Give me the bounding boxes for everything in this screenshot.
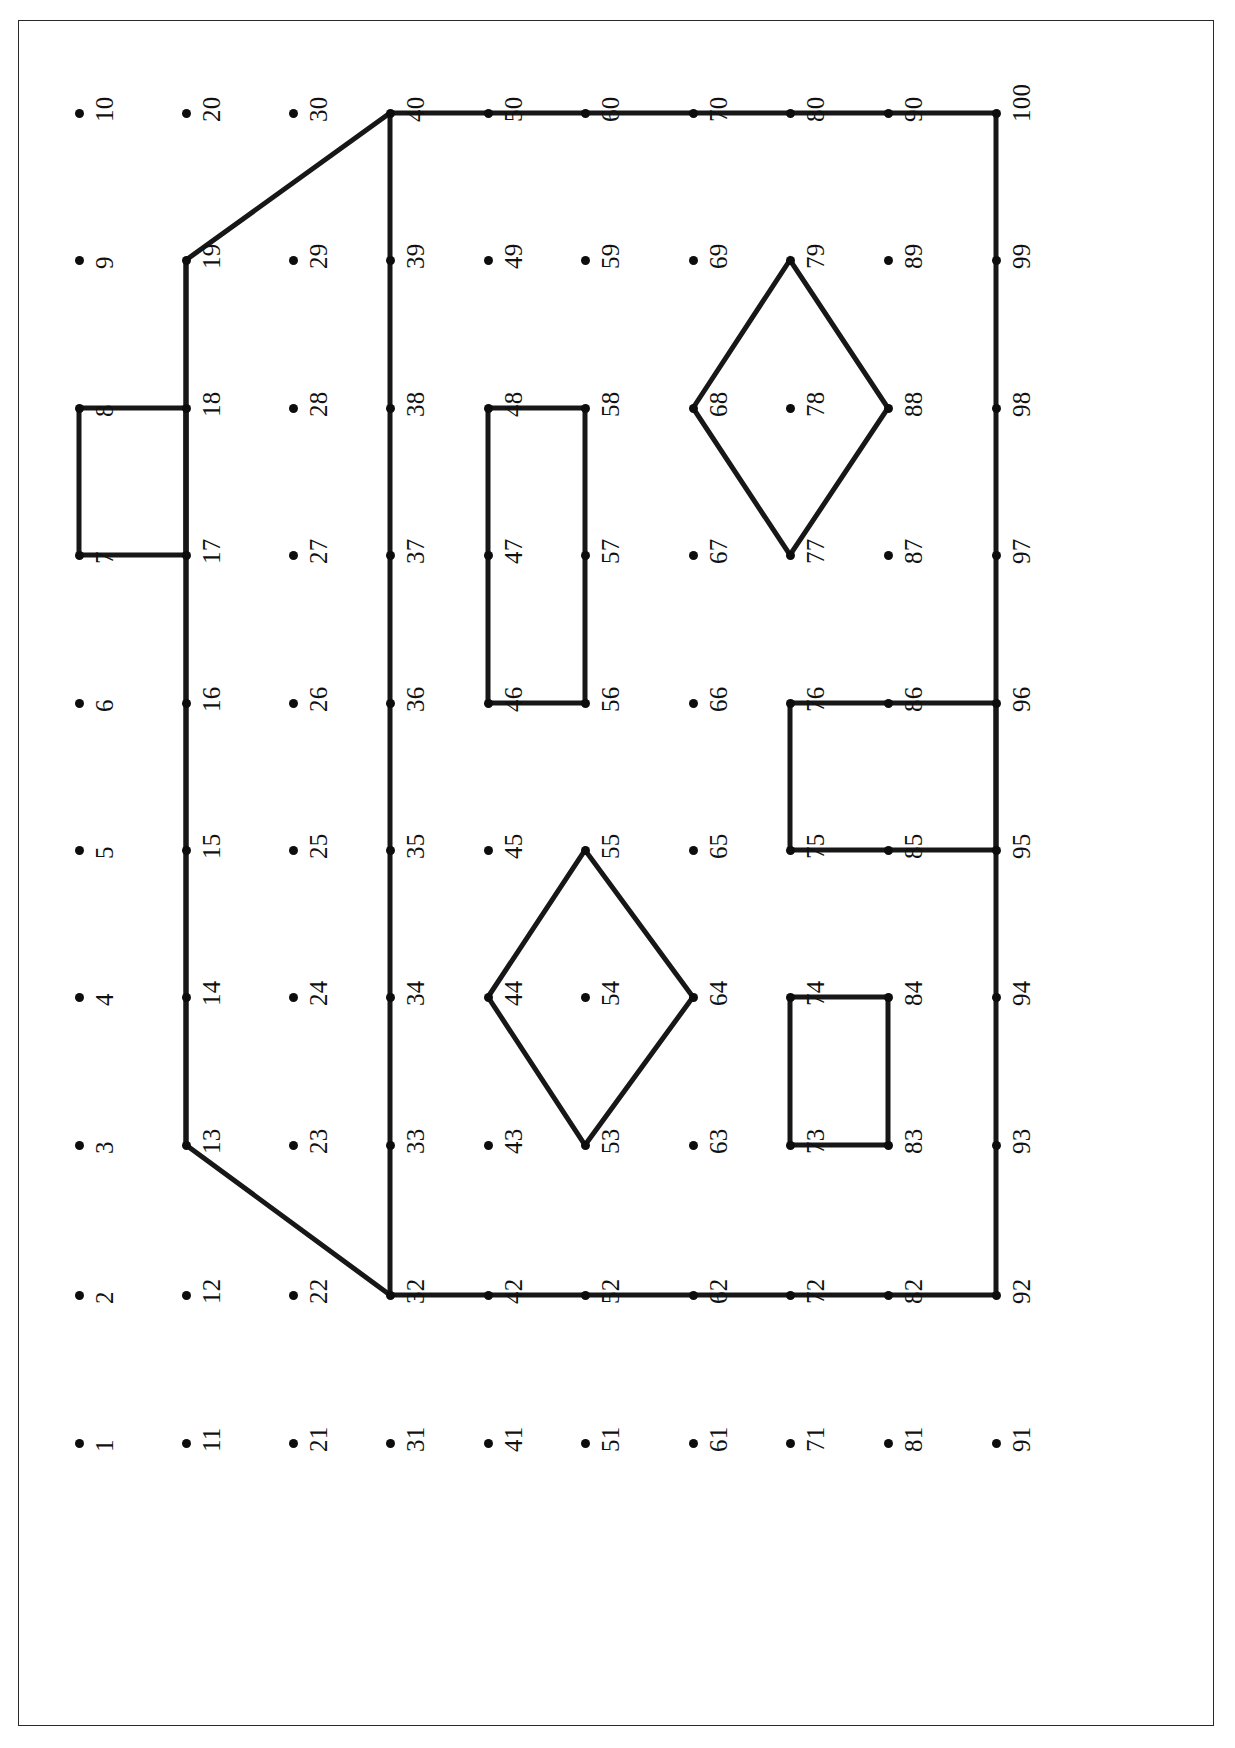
- node-label-15: 15: [199, 834, 224, 859]
- node-dot-56: [581, 699, 590, 708]
- node-dot-11: [182, 1439, 191, 1448]
- node-dot-54: [581, 993, 590, 1002]
- node-label-6: 6: [92, 699, 117, 712]
- node-label-65: 65: [706, 834, 731, 859]
- node-label-52: 52: [598, 1279, 623, 1304]
- node-label-42: 42: [501, 1279, 526, 1304]
- node-label-25: 25: [306, 834, 331, 859]
- node-dot-3: [75, 1141, 84, 1150]
- node-dot-16: [182, 699, 191, 708]
- node-label-75: 75: [803, 834, 828, 859]
- node-label-97: 97: [1009, 539, 1034, 564]
- node-dot-99: [992, 256, 1001, 265]
- node-label-95: 95: [1009, 834, 1034, 859]
- node-dot-65: [689, 846, 698, 855]
- node-label-55: 55: [598, 834, 623, 859]
- node-dot-59: [581, 256, 590, 265]
- node-dot-29: [289, 256, 298, 265]
- node-dot-71: [786, 1439, 795, 1448]
- node-label-67: 67: [706, 539, 731, 564]
- node-dot-67: [689, 551, 698, 560]
- node-label-59: 59: [598, 244, 623, 269]
- node-label-43: 43: [501, 1129, 526, 1154]
- node-dot-82: [884, 1291, 893, 1300]
- node-dot-89: [884, 256, 893, 265]
- node-label-72: 72: [803, 1279, 828, 1304]
- node-label-79: 79: [803, 244, 828, 269]
- node-label-14: 14: [199, 981, 224, 1006]
- node-dot-97: [992, 551, 1001, 560]
- node-dot-52: [581, 1291, 590, 1300]
- node-label-99: 99: [1009, 244, 1034, 269]
- node-label-41: 41: [501, 1427, 526, 1452]
- node-label-63: 63: [706, 1129, 731, 1154]
- node-label-1: 1: [92, 1439, 117, 1452]
- node-label-58: 58: [598, 392, 623, 417]
- node-label-84: 84: [901, 981, 926, 1006]
- node-label-91: 91: [1009, 1427, 1034, 1452]
- node-dot-69: [689, 256, 698, 265]
- node-dot-27: [289, 551, 298, 560]
- node-dot-19: [182, 256, 191, 265]
- node-label-29: 29: [306, 244, 331, 269]
- node-dot-81: [884, 1439, 893, 1448]
- node-label-40: 40: [403, 97, 428, 122]
- node-dot-77: [786, 551, 795, 560]
- node-dot-62: [689, 1291, 698, 1300]
- node-label-3: 3: [92, 1141, 117, 1154]
- node-dot-94: [992, 993, 1001, 1002]
- node-label-49: 49: [501, 244, 526, 269]
- node-label-53: 53: [598, 1129, 623, 1154]
- node-dot-64: [689, 993, 698, 1002]
- node-dot-98: [992, 404, 1001, 413]
- node-label-61: 61: [706, 1427, 731, 1452]
- node-label-38: 38: [403, 392, 428, 417]
- node-dot-25: [289, 846, 298, 855]
- node-dot-37: [386, 551, 395, 560]
- node-label-78: 78: [803, 392, 828, 417]
- node-dot-86: [884, 699, 893, 708]
- node-dot-13: [182, 1141, 191, 1150]
- node-label-22: 22: [306, 1279, 331, 1304]
- node-dot-12: [182, 1291, 191, 1300]
- polyline-right-upper-rectangle: [790, 703, 996, 850]
- node-label-88: 88: [901, 392, 926, 417]
- node-label-17: 17: [199, 539, 224, 564]
- node-label-98: 98: [1009, 392, 1034, 417]
- node-dot-20: [182, 109, 191, 118]
- node-label-60: 60: [598, 97, 623, 122]
- node-label-50: 50: [501, 97, 526, 122]
- node-label-2: 2: [92, 1291, 117, 1304]
- node-dot-10: [75, 109, 84, 118]
- diagram-page: 1234567891011121314151617181920212223242…: [0, 0, 1235, 1748]
- node-dot-70: [689, 109, 698, 118]
- node-label-70: 70: [706, 97, 731, 122]
- node-dot-45: [484, 846, 493, 855]
- node-dot-24: [289, 993, 298, 1002]
- node-dot-33: [386, 1141, 395, 1150]
- node-label-8: 8: [92, 404, 117, 417]
- node-dot-51: [581, 1439, 590, 1448]
- node-label-24: 24: [306, 981, 331, 1006]
- node-dot-68: [689, 404, 698, 413]
- node-label-62: 62: [706, 1279, 731, 1304]
- node-dot-87: [884, 551, 893, 560]
- node-dot-47: [484, 551, 493, 560]
- node-label-32: 32: [403, 1279, 428, 1304]
- node-label-4: 4: [92, 993, 117, 1006]
- node-dot-22: [289, 1291, 298, 1300]
- node-dot-55: [581, 846, 590, 855]
- node-dot-48: [484, 404, 493, 413]
- node-label-21: 21: [306, 1427, 331, 1452]
- node-dot-31: [386, 1439, 395, 1448]
- node-dot-63: [689, 1141, 698, 1150]
- polyline-left-notch-rectangle: [79, 408, 186, 555]
- node-label-81: 81: [901, 1427, 926, 1452]
- node-label-35: 35: [403, 834, 428, 859]
- node-dot-7: [75, 551, 84, 560]
- node-label-46: 46: [501, 687, 526, 712]
- node-label-45: 45: [501, 834, 526, 859]
- node-dot-93: [992, 1141, 1001, 1150]
- node-dot-100: [992, 109, 1001, 118]
- node-label-86: 86: [901, 687, 926, 712]
